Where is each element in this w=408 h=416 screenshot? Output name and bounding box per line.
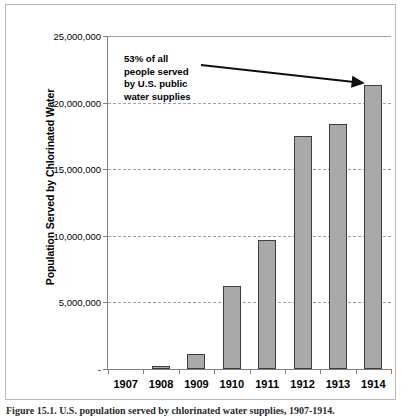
x-tick-label: 1908 xyxy=(149,378,173,390)
x-tick-mark xyxy=(179,369,180,374)
bar xyxy=(329,124,347,369)
y-tick-label: 15,000,000 xyxy=(53,164,101,175)
y-tick-label: - xyxy=(98,364,101,375)
bar xyxy=(294,136,312,369)
annotation-line-1: 53% of all xyxy=(124,53,220,66)
bar-slot xyxy=(250,36,285,369)
y-tick-label: 10,000,000 xyxy=(53,230,101,241)
bar xyxy=(187,354,205,369)
chart-frame: Population Served by Chlorinated Water -… xyxy=(5,4,396,400)
annotation-line-3: by U.S. public xyxy=(124,78,220,91)
annotation-line-2: people served xyxy=(124,66,220,79)
annotation-line-4: water supplies xyxy=(124,91,220,104)
x-tick-mark xyxy=(320,369,321,374)
x-tick-mark xyxy=(214,369,215,374)
x-tick-mark xyxy=(250,369,251,374)
x-tick-label: 1913 xyxy=(326,378,350,390)
x-tick-mark xyxy=(143,369,144,374)
bar-slot xyxy=(285,36,320,369)
y-tick-label: 20,000,000 xyxy=(53,97,101,108)
x-tick-label: 1914 xyxy=(361,378,385,390)
x-tick-label: 1909 xyxy=(184,378,208,390)
x-tick-label: 1911 xyxy=(255,378,279,390)
x-tick-mark xyxy=(391,369,392,374)
bar xyxy=(152,366,170,369)
figure-caption: Figure 15.1. U.S. population served by c… xyxy=(6,405,406,416)
y-tick-label: 25,000,000 xyxy=(53,31,101,42)
x-tick-label: 1907 xyxy=(113,378,137,390)
x-tick-mark xyxy=(285,369,286,374)
bar-slot xyxy=(320,36,355,369)
figure: Population Served by Chlorinated Water -… xyxy=(0,0,408,416)
bar xyxy=(258,240,276,369)
y-axis-title: Population Served by Chlorinated Water xyxy=(44,47,56,327)
bar xyxy=(223,286,241,369)
x-tick-mark xyxy=(108,369,109,374)
x-tick-label: 1912 xyxy=(290,378,314,390)
bar-slot xyxy=(356,36,391,369)
annotation-callout: 53% of all people served by U.S. public … xyxy=(124,53,220,103)
y-tick-label: 5,000,000 xyxy=(59,297,101,308)
x-tick-label: 1910 xyxy=(220,378,244,390)
x-tick-mark xyxy=(356,369,357,374)
bar xyxy=(364,85,382,369)
